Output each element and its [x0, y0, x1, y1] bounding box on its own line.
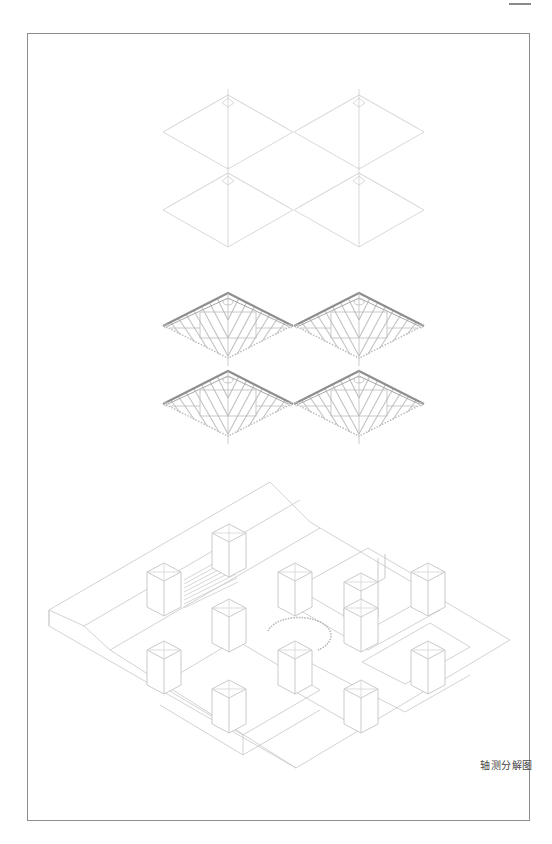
tower	[344, 680, 378, 733]
roof-outline-nw	[163, 89, 293, 169]
roof-frame-ne	[289, 292, 429, 366]
tower	[344, 599, 378, 652]
drawing-caption: 轴测分解图	[480, 757, 533, 772]
drawing-sheet: 轴测分解图	[0, 0, 552, 844]
tower	[212, 599, 246, 652]
roof-framing-layer	[158, 292, 429, 444]
tower	[411, 563, 445, 616]
tower	[147, 563, 181, 616]
tower	[147, 641, 181, 694]
axonometric-exploded-drawing	[0, 0, 552, 844]
roof-outline-layer	[163, 89, 424, 247]
roof-outline-ne	[294, 89, 424, 169]
roof-outline-se	[294, 167, 424, 247]
base-plan-layer	[49, 482, 510, 768]
roof-outline-sw	[163, 167, 293, 247]
roof-frame-se	[289, 370, 429, 444]
tower	[278, 563, 312, 616]
ground-slab	[49, 482, 510, 768]
tower	[212, 524, 246, 577]
tower	[411, 641, 445, 694]
roof-frame-sw	[158, 370, 298, 444]
tower	[212, 680, 246, 733]
roof-frame-nw	[158, 292, 298, 366]
tower	[278, 641, 312, 694]
